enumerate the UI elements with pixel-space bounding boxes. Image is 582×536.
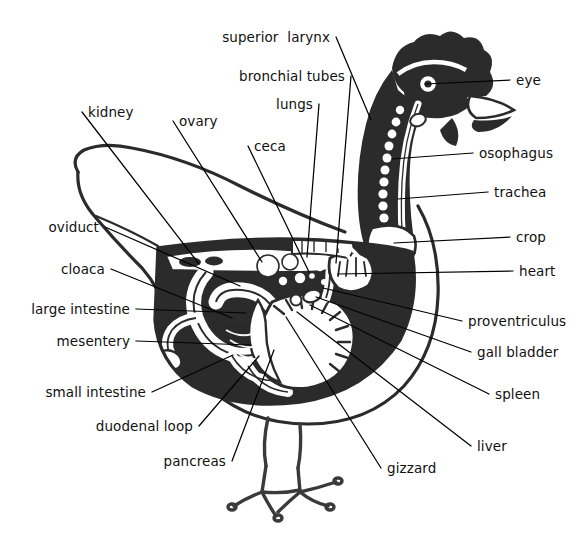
label-crop: crop: [516, 231, 546, 245]
label-ceca: ceca: [254, 140, 286, 154]
label-layer: superior larynxbronchial tubeslungseyeos…: [0, 0, 582, 536]
label-mesentery: mesentery: [57, 335, 130, 349]
label-kidney: kidney: [88, 106, 134, 120]
label-superior-larynx: superior larynx: [222, 31, 330, 45]
label-heart: heart: [519, 265, 555, 279]
label-bronchial-tubes: bronchial tubes: [239, 70, 345, 84]
label-osophagus: osophagus: [479, 147, 553, 161]
anatomy-diagram: superior larynxbronchial tubeslungseyeos…: [0, 0, 582, 536]
label-cloaca: cloaca: [61, 263, 105, 277]
label-duodenal-loop: duodenal loop: [96, 420, 193, 434]
label-proventriculus: proventriculus: [468, 315, 566, 329]
label-trachea: trachea: [494, 186, 546, 200]
label-eye: eye: [516, 74, 541, 88]
label-small-intestine: small intestine: [45, 386, 146, 400]
label-gall-bladder: gall bladder: [477, 346, 558, 360]
label-large-intestine: large intestine: [31, 303, 130, 317]
label-oviduct: oviduct: [48, 221, 99, 235]
label-lungs: lungs: [276, 98, 313, 112]
label-pancreas: pancreas: [164, 455, 227, 469]
label-liver: liver: [477, 440, 507, 454]
label-spleen: spleen: [495, 388, 540, 402]
label-ovary: ovary: [179, 115, 218, 129]
label-gizzard: gizzard: [387, 462, 436, 476]
